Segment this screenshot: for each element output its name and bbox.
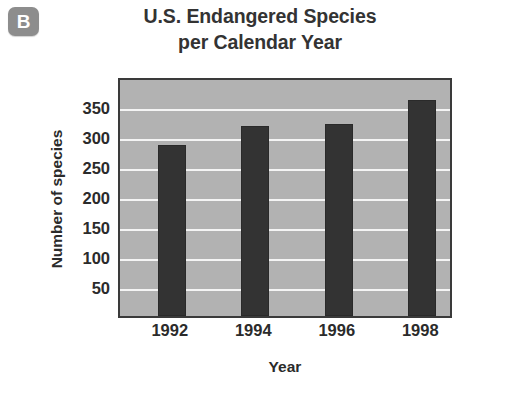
y-axis-tick-label: 250	[82, 160, 110, 177]
x-axis-tick-label: 1992	[151, 322, 188, 339]
chart-figure: B U.S. Endangered Species per Calendar Y…	[0, 0, 509, 408]
chart-title-line-2: per Calendar Year	[95, 30, 425, 56]
bar	[325, 124, 353, 316]
x-axis-tick-label: 1994	[235, 322, 272, 339]
plot-area	[118, 78, 452, 318]
x-axis-tick-labels: 1992199419961998	[118, 322, 452, 346]
y-axis-tick-label: 100	[82, 250, 110, 267]
y-axis-tick-label: 200	[82, 190, 110, 207]
chart-title-line-1: U.S. Endangered Species	[95, 4, 425, 30]
chart-title: U.S. Endangered Species per Calendar Yea…	[95, 4, 425, 55]
x-axis-tick-label: 1996	[318, 322, 355, 339]
y-axis-tick-label: 150	[82, 220, 110, 237]
panel-badge-label: B	[17, 12, 31, 31]
y-axis-tick-label: 300	[82, 130, 110, 147]
panel-letter-badge: B	[8, 7, 39, 36]
y-axis-tick-label: 50	[92, 280, 110, 297]
y-axis-tick-labels: 50100150200250300350	[58, 78, 110, 318]
x-axis-title: Year	[118, 358, 452, 376]
bar-series	[120, 80, 450, 316]
bar	[241, 126, 269, 316]
x-axis-tick-label: 1998	[402, 322, 439, 339]
y-axis-tick-label: 350	[82, 100, 110, 117]
bar	[158, 145, 186, 316]
bar	[408, 100, 436, 316]
